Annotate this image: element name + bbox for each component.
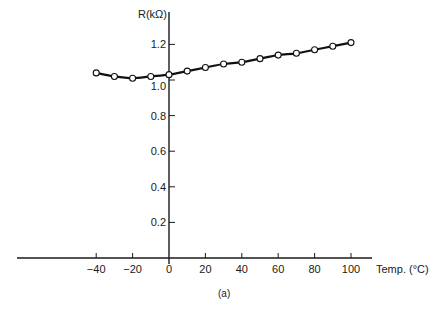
data-point-marker [184, 68, 190, 74]
data-point-marker [257, 56, 263, 62]
y-tick-label: 0.8 [151, 110, 166, 122]
x-tick-label: 100 [342, 263, 360, 275]
y-axis-label: R(kΩ) [138, 8, 167, 20]
x-tick-label: 60 [272, 263, 284, 275]
figure-caption: (a) [218, 288, 230, 299]
data-point-marker [202, 65, 208, 71]
data-point-marker [148, 73, 154, 79]
chart: −40−200204060801000.20.40.60.81.01.2 Tem… [0, 0, 445, 309]
data-point-marker [111, 73, 117, 79]
x-tick-label: 0 [166, 263, 172, 275]
x-tick-label: −20 [123, 263, 142, 275]
data-point-marker [330, 43, 336, 49]
data-point-marker [93, 70, 99, 76]
x-tick-label: −40 [87, 263, 106, 275]
ticks: −40−200204060801000.20.40.60.81.01.2 [87, 38, 360, 275]
data-point-marker [348, 40, 354, 46]
y-tick-label: 0.2 [151, 216, 166, 228]
y-tick-label: 1.2 [151, 38, 166, 50]
y-tick-label: 1.0 [151, 80, 166, 92]
y-tick-label: 0.6 [151, 145, 166, 157]
x-tick-label: 40 [236, 263, 248, 275]
data-point-marker [293, 50, 299, 56]
y-tick-label: 0.4 [151, 181, 166, 193]
x-tick-label: 20 [199, 263, 211, 275]
x-tick-label: 80 [308, 263, 320, 275]
data-point-marker [275, 52, 281, 58]
data-point-marker [312, 47, 318, 53]
data-point-marker [239, 59, 245, 65]
data-point-marker [221, 61, 227, 67]
data-point-marker [130, 75, 136, 81]
data-point-marker [166, 72, 172, 78]
x-axis-label: Temp. (°C) [376, 263, 429, 275]
data-series [93, 40, 354, 82]
